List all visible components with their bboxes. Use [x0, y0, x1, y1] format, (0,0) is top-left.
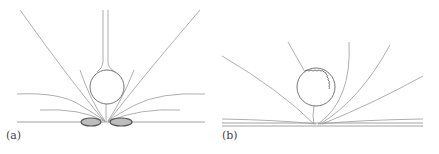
- figure-canvas: [0, 0, 439, 154]
- stem-left: [97, 10, 103, 72]
- panel-label-a: (a): [6, 129, 21, 142]
- streamline: [108, 94, 205, 121]
- streamline: [322, 76, 423, 124]
- panel-a: [17, 10, 205, 126]
- panel-b: [222, 42, 423, 126]
- streamline: [17, 94, 105, 121]
- streamline: [108, 10, 200, 122]
- streamline: [222, 56, 314, 124]
- stem-right: [108, 10, 115, 72]
- rough-surface: [305, 70, 330, 89]
- panel-label-b: (b): [222, 129, 238, 142]
- streamline: [20, 10, 105, 122]
- lens-blob-left: [81, 118, 101, 126]
- lens-blob-right: [110, 118, 132, 126]
- streamline: [288, 42, 305, 72]
- figure: (a) (b): [0, 0, 439, 154]
- streamline: [313, 106, 314, 124]
- streamline: [318, 42, 349, 124]
- circle-particle: [90, 70, 124, 104]
